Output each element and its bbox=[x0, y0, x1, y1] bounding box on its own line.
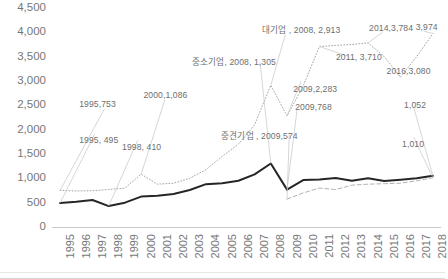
x-axis-tick: 2006 bbox=[243, 234, 254, 258]
y-axis-tick: 0 bbox=[40, 221, 46, 233]
y-axis-tick: 1,500 bbox=[17, 148, 46, 160]
frame-rule-upper bbox=[0, 272, 445, 273]
series-line-중소기업 bbox=[60, 163, 433, 206]
series-line-중견기업 bbox=[287, 178, 433, 199]
y-axis-tick: 2,000 bbox=[17, 124, 46, 136]
x-axis-tick: 2004 bbox=[210, 234, 221, 258]
x-axis-tick: 2013 bbox=[356, 234, 367, 258]
x-axis-tick: 2003 bbox=[194, 234, 205, 258]
x-axis-tick: 1997 bbox=[97, 234, 108, 258]
series-line-대기업 bbox=[60, 34, 433, 191]
y-axis: 05001,0001,5002,0002,5003,0003,5004,0004… bbox=[0, 0, 52, 235]
x-axis-tick: 2001 bbox=[162, 234, 173, 258]
y-axis-tick: 3,000 bbox=[17, 75, 46, 87]
x-axis-tick: 2002 bbox=[178, 234, 189, 258]
x-axis-tick: 2005 bbox=[227, 234, 238, 258]
x-axis-tick: 2017 bbox=[421, 234, 432, 258]
x-axis-tick: 1999 bbox=[129, 234, 140, 258]
x-axis-tick: 2009 bbox=[292, 234, 303, 258]
y-axis-tick: 2,500 bbox=[17, 100, 46, 112]
x-axis-tick: 2014 bbox=[373, 234, 384, 258]
x-axis-tick: 2011 bbox=[324, 234, 335, 258]
x-axis-line bbox=[52, 227, 441, 228]
x-axis-tick: 2018 bbox=[437, 234, 448, 258]
y-axis-tick: 1,000 bbox=[17, 173, 46, 185]
x-axis-tick: 1998 bbox=[113, 234, 124, 258]
x-axis-tick: 2012 bbox=[340, 234, 351, 258]
x-axis-tick: 2016 bbox=[405, 234, 416, 258]
y-axis-tick: 4,000 bbox=[17, 27, 46, 39]
plot-area bbox=[52, 8, 441, 227]
series-svg bbox=[52, 8, 441, 227]
x-axis-tick: 1996 bbox=[81, 234, 92, 258]
y-axis-tick: 3,500 bbox=[17, 51, 46, 63]
y-axis-tick: 4,500 bbox=[17, 2, 46, 14]
x-axis-tick: 2007 bbox=[259, 234, 270, 258]
x-axis-tick: 2008 bbox=[275, 234, 286, 258]
x-axis-tick: 1995 bbox=[65, 234, 76, 258]
x-axis-tick: 2000 bbox=[146, 234, 157, 258]
x-axis-tick: 2010 bbox=[308, 234, 319, 258]
y-axis-tick: 500 bbox=[27, 197, 46, 209]
x-axis-tick: 2015 bbox=[389, 234, 400, 258]
